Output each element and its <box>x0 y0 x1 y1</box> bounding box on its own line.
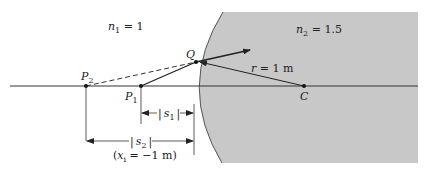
radius-label: r = 1 m <box>251 62 294 75</box>
medium2-label: n2 = 1.5 <box>296 23 342 38</box>
point-C-label: C <box>300 90 309 103</box>
xi-note: (xi = −1 m) <box>113 149 177 164</box>
virtual-ray-dashed <box>86 62 196 86</box>
point-Q-label: Q <box>186 48 195 61</box>
point-C <box>302 84 306 88</box>
s1-label: |s1| <box>158 107 180 122</box>
refraction-diagram: n1 = 1 n2 = 1.5 Q r = 1 m C P2 P1 |s1| |… <box>0 0 428 173</box>
incident-ray <box>141 62 196 86</box>
medium1-label: n1 = 1 <box>108 20 143 35</box>
s2-label: |s2| <box>130 135 152 150</box>
point-P2-label: P2 <box>80 70 94 85</box>
point-P1-label: P1 <box>124 90 138 105</box>
